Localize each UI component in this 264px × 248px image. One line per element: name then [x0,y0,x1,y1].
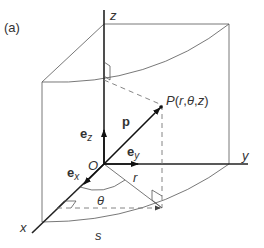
top-x-edge [42,24,104,82]
top-arc [42,24,229,82]
ex-base: e [67,165,74,180]
ey-label: ey [127,144,140,161]
theta-label: θ [97,193,104,208]
panel-label: (a) [4,20,20,35]
point-P-theta: θ [187,93,194,108]
cylinder-wedge [42,24,229,222]
point-P-dot [159,105,163,109]
cylindrical-coordinates-diagram: (a) z y x r θ s p ez ey ex [0,0,264,248]
arc-length-label: s [95,228,102,243]
point-P-name: P [166,93,175,108]
point-P-label: P(r,θ,z) [166,93,209,108]
ez-base: e [80,126,87,141]
ex-label: ex [67,165,80,182]
right-angle-marker-base [152,190,162,208]
ey-sub: y [133,150,140,161]
point-P-close: ) [204,93,208,108]
position-vector-label: p [122,114,130,129]
ey-base: e [127,144,134,159]
ez-sub: z [86,132,92,143]
ex-sub: x [73,171,80,182]
projection-to-z-axis [104,80,162,105]
y-axis-label: y [241,148,250,163]
ez-label: ez [80,126,92,143]
z-axis-label: z [109,8,117,23]
x-axis-label: x [19,220,27,235]
radius-label: r [133,170,138,185]
origin-label: O [88,158,98,173]
